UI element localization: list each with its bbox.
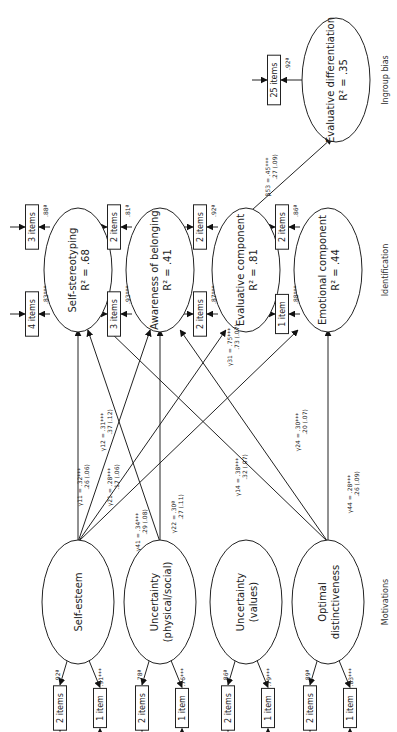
path-coefficient-detail: .37 (.12) [106, 409, 113, 435]
latent-self-stereo-label: Self-stereotyping [67, 228, 78, 313]
latent-self-stereo [44, 208, 112, 332]
loading-label: .89ª [304, 670, 311, 683]
path-coefficient-detail: .29 (.08) [141, 509, 148, 535]
svg-text:2 items: 2 items [196, 299, 205, 329]
svg-text:2 items: 2 items [196, 212, 205, 242]
indicator-box: 1 item [276, 294, 289, 333]
path-diagram: 2 items1 item2 items1 item2 items1 item2… [0, 0, 397, 732]
path-coefficient-detail: .17 (.06) [113, 464, 120, 490]
latent-evaluative-differentiation-label: R² = .35 [338, 59, 349, 101]
path-coefficient-detail: .32 (.07) [241, 454, 248, 480]
svg-text:3 items: 3 items [28, 212, 37, 242]
svg-text:2 items: 2 items [56, 693, 65, 723]
latent-evaluative-differentiation-label: Evaluative differentiation [325, 17, 336, 143]
loading-label: .81ª [124, 204, 131, 217]
indicator-box: 3 items [26, 205, 39, 249]
latent-awareness [126, 208, 194, 332]
svg-text:3 items: 3 items [110, 299, 119, 329]
latent-uncertainty-phys-label: Uncertainty [149, 573, 160, 632]
path-coefficient-detail: .26 (.06) [83, 464, 90, 490]
section-label-ingroup-bias: Ingroup bias [381, 55, 390, 105]
latent-uncertainty-phys [124, 540, 196, 664]
path-self-esteem-to-awareness [78, 330, 150, 542]
latent-uncertainty-phys-label: (physical/social) [162, 562, 173, 643]
section-label-motivations: Motivations [381, 579, 390, 625]
latent-self-stereo-label: R² = .68 [80, 249, 91, 291]
indicator-box: 2 items [222, 686, 235, 730]
indicator-box: 2 items [276, 205, 289, 249]
loading-label: .88ª [42, 204, 49, 217]
loading-label: .92ª [210, 204, 217, 217]
indicator-box: 1 item [176, 688, 189, 727]
indicator-box: 1 item [262, 688, 275, 727]
svg-text:1 item: 1 item [346, 695, 355, 721]
latent-optimal-label: distinctiveness [330, 565, 341, 640]
latent-awareness-label: Awareness of belonging [149, 210, 160, 329]
indicator-box: 1 item [344, 688, 357, 727]
svg-text:2 items: 2 items [110, 212, 119, 242]
latent-uncertainty-values [210, 540, 282, 664]
latent-emotional-label: Emotional component [317, 215, 328, 325]
svg-text:1 item: 1 item [96, 695, 105, 721]
latent-awareness-label: R² = .41 [162, 249, 173, 291]
loading-label: .86ª [222, 670, 229, 683]
latent-evaluative [212, 208, 280, 332]
svg-text:25 items: 25 items [270, 63, 279, 98]
indicator-box: 1 item [94, 688, 107, 727]
indicator-box: 2 items [194, 292, 207, 336]
loading-label: .92ª [54, 670, 61, 683]
svg-text:1 item: 1 item [178, 695, 187, 721]
path-coefficient-detail: .73 (.07) [233, 324, 240, 350]
svg-text:2 items: 2 items [306, 693, 315, 723]
latent-evaluative-label: Evaluative component [235, 214, 246, 326]
indicator-box: 2 items [304, 686, 317, 730]
loading-label: .87*** [210, 285, 217, 304]
latent-uncertainty-values-label: (values) [248, 582, 259, 622]
svg-text:2 items: 2 items [138, 693, 147, 723]
loading-label: .83*** [347, 668, 354, 687]
loading-label: .78ª [136, 670, 143, 683]
indicator-box: 2 items [136, 686, 149, 730]
svg-text:2 items: 2 items [224, 693, 233, 723]
loading-label: .92ª [284, 57, 291, 70]
path-self-esteem-to-emotional [78, 330, 298, 542]
path-coefficient-detail: .27 (.11) [177, 494, 184, 520]
loading-label: .93*** [124, 285, 131, 304]
path-coefficient-detail: .27 (.09) [271, 154, 278, 180]
latent-optimal [292, 540, 364, 664]
latent-optimal-label: Optimal [317, 582, 328, 622]
path-coefficient-detail: .20 (.07) [301, 409, 308, 435]
loading-label: .86ª [292, 204, 299, 217]
svg-text:1 item: 1 item [264, 695, 273, 721]
loading-label: .79*** [265, 668, 272, 687]
loading-label: .83*** [42, 285, 49, 304]
loading-label: .88*** [292, 285, 299, 304]
section-label-identification: Identification [381, 244, 390, 296]
path-optimal-to-awareness [180, 330, 328, 542]
loading-label: .76*** [179, 668, 186, 687]
indicator-box: 2 items [194, 205, 207, 249]
latent-emotional-label: R² = .44 [330, 249, 341, 291]
path-coefficient-detail: .26 (.09) [353, 471, 360, 497]
latent-emotional [294, 208, 362, 332]
indicator-box: 4 items [26, 292, 39, 336]
svg-text:1 item: 1 item [278, 301, 287, 327]
latent-self-esteem-label: Self-esteem [73, 572, 84, 631]
latent-uncertainty-values-label: Uncertainty [235, 573, 246, 632]
indicator-box: 25 items [268, 55, 281, 105]
svg-text:4 items: 4 items [28, 299, 37, 329]
latent-evaluative-differentiation [302, 18, 370, 142]
indicator-box: 2 items [108, 205, 121, 249]
svg-text:2 items: 2 items [278, 212, 287, 242]
indicator-box: 3 items [108, 292, 121, 336]
latent-evaluative-label: R² = .81 [248, 249, 259, 291]
indicator-box: 2 items [54, 686, 67, 730]
loading-label: .91*** [97, 668, 104, 687]
